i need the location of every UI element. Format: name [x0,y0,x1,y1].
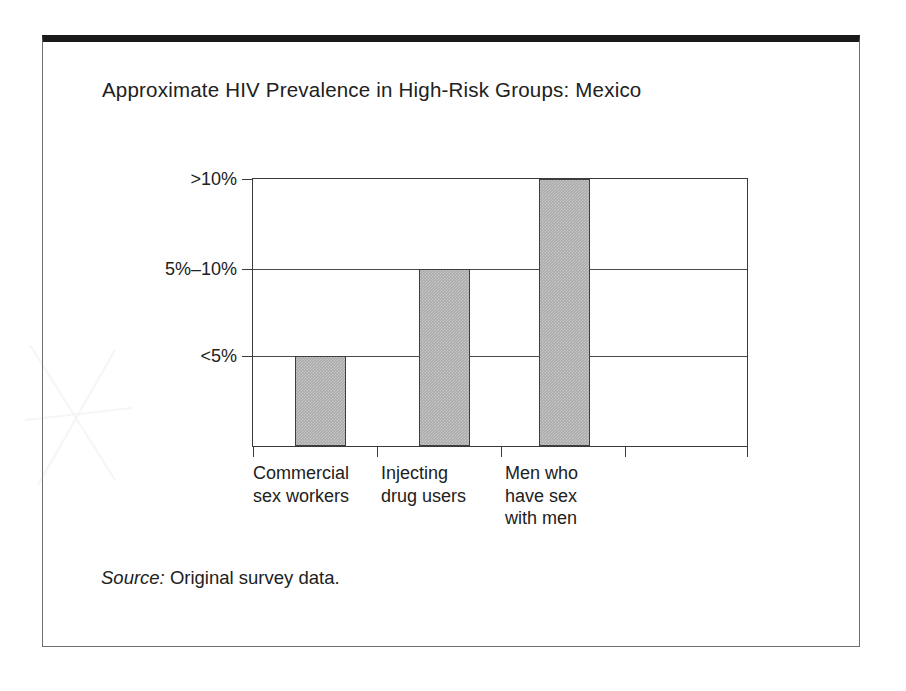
ytick-mark-5to10 [242,269,253,270]
source-label: Source: [101,567,165,588]
ytick-label-gt10: >10% [190,169,237,190]
bar-injecting-drug-users [419,269,470,446]
gridline-5to10 [253,269,747,270]
category-label-injecting-drug-users: Injecting drug users [381,462,511,507]
bar-men-who-have-sex-with-men [539,179,590,446]
xtick-mark-0 [253,446,254,457]
category-label-commercial-sex-workers: Commercial sex workers [253,462,383,507]
category-label-men-who-have-sex-with-men: Men who have sex with men [505,462,645,530]
source-note: Source: Original survey data. [101,567,340,589]
xtick-mark-2 [501,446,502,457]
bar-commercial-sex-workers [295,356,346,446]
ytick-mark-gt10 [242,179,253,180]
chart-title: Approximate HIV Prevalence in High-Risk … [102,78,641,102]
source-text: Original survey data. [165,567,340,588]
xtick-mark-1 [377,446,378,457]
ytick-mark-lt5 [242,356,253,357]
xtick-mark-4 [747,446,748,457]
ytick-label-5to10: 5%–10% [165,259,237,280]
plot-area: >10% 5%–10% <5% [252,178,748,447]
xtick-mark-3 [625,446,626,457]
ytick-label-lt5: <5% [200,346,237,367]
